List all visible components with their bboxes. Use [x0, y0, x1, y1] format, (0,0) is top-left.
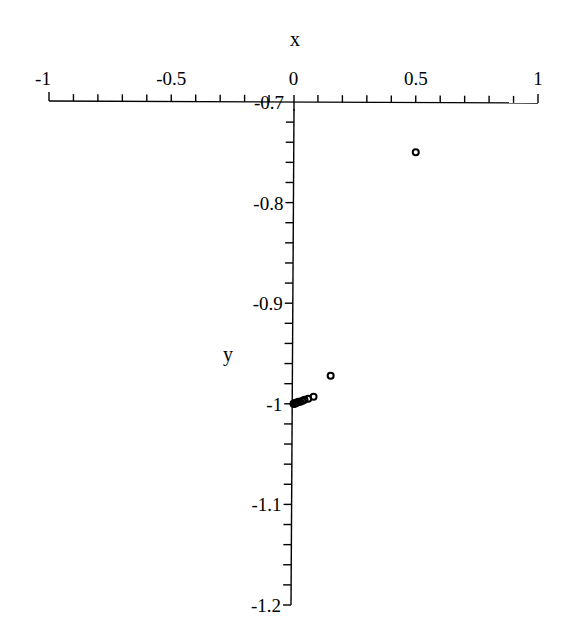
x-axis-title: x — [290, 28, 300, 50]
x-tick-label: -0.5 — [156, 68, 186, 89]
x-tick-label: 1 — [533, 68, 543, 89]
scatter-plot: -1-0.500.51 -0.7-0.8-0.9-1-1.1-1.2 x y — [0, 0, 568, 636]
x-tick-label: 0.5 — [404, 68, 428, 89]
y-tick-label: -0.8 — [253, 193, 283, 214]
data-point — [328, 373, 334, 379]
y-tick-label: -1.1 — [252, 494, 282, 515]
y-tick-label: -1.2 — [251, 595, 281, 616]
y-tick-label: -0.9 — [253, 293, 283, 314]
x-axis: -1-0.500.51 — [35, 68, 543, 103]
x-tick-label: -1 — [35, 68, 51, 89]
data-points — [291, 149, 419, 407]
x-tick-label: 0 — [289, 68, 299, 89]
y-axis: -0.7-0.8-0.9-1-1.1-1.2 — [251, 92, 294, 616]
data-point — [413, 149, 419, 155]
y-tick-label: -1 — [266, 394, 282, 415]
y-axis-title: y — [223, 343, 233, 366]
y-tick-label: -0.7 — [254, 92, 284, 113]
